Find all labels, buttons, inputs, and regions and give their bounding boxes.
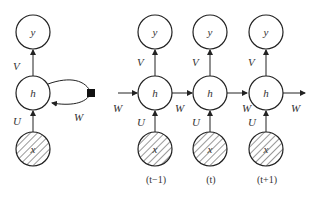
folded-weight-w: W (74, 111, 84, 123)
time-step-t-plus-1: y h x V U (t+1) (248, 15, 283, 186)
time-label: (t+1) (257, 174, 277, 186)
delay-square-icon (87, 89, 95, 97)
folded-rnn: y h x V U W (13, 15, 95, 166)
incoming-weight-w: W (113, 102, 123, 114)
hidden-label: h (263, 87, 269, 99)
folded-recurrent-in (52, 93, 91, 104)
between-weight-w-1: W (175, 102, 185, 114)
input-label: x (207, 143, 213, 155)
time-step-t: y h x V U (t) (192, 15, 227, 186)
outgoing-weight-w: W (291, 102, 301, 114)
folded-hidden-label: h (30, 87, 36, 99)
output-label: y (152, 26, 158, 38)
folded-recurrent-out (48, 80, 91, 93)
between-weight-w-2: W (242, 102, 252, 114)
folded-weight-v: V (13, 60, 21, 72)
weight-u: U (248, 116, 257, 128)
time-step-t-minus-1: y h x V U (t−1) (137, 15, 172, 186)
weight-v: V (192, 56, 200, 68)
hidden-label: h (152, 87, 158, 99)
input-label: x (263, 143, 269, 155)
input-label: x (152, 143, 158, 155)
weight-v: V (137, 56, 145, 68)
unfolded-rnn: W y h x V U (t−1) W y h x V (113, 15, 305, 186)
weight-u: U (192, 116, 201, 128)
rnn-diagram: y h x V U W W y h x V U (t−1) (0, 0, 319, 198)
hidden-label: h (207, 87, 213, 99)
weight-u: U (137, 116, 146, 128)
time-label: (t) (206, 174, 215, 186)
weight-v: V (248, 56, 256, 68)
output-label: y (263, 26, 269, 38)
folded-input-label: x (30, 143, 36, 155)
folded-output-label: y (30, 26, 36, 38)
output-label: y (207, 26, 213, 38)
folded-weight-u: U (13, 115, 22, 127)
time-label: (t−1) (146, 174, 166, 186)
